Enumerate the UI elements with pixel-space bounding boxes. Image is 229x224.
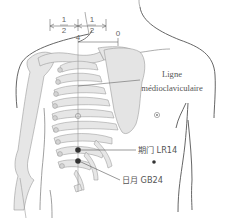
acupoint-lr14-label: 期门 LR14 [138,145,177,155]
nipple-marker [154,112,159,117]
left-fraction-numerator: 1 [62,15,67,24]
acupoint-gb24-dot [75,158,81,164]
anatomy-diagram: 1 2 1 2 4 0 Ligne médioclaviculaire [0,0,229,224]
rib-cage [52,61,118,192]
humerus [14,52,54,218]
right-fraction-numerator: 1 [90,15,95,24]
measurement-labels: 1 2 1 2 4 0 [60,15,121,42]
left-fraction-denominator: 2 [62,26,67,35]
acupoint-gb24-label: 日月 GB24 [122,175,163,185]
acupoint-gb24-leader [81,162,120,180]
sternum-region [104,48,145,134]
scale-mark-4: 4 [76,33,81,42]
midclavicular-label-line1: Ligne [162,69,182,79]
scale-mark-0: 0 [116,29,121,38]
acupoint-lr14-dot [75,147,81,153]
right-acupoint-dot [152,160,156,164]
right-fraction-denominator: 2 [90,26,95,35]
midclavicular-label-line2: médioclaviculaire [141,83,203,93]
